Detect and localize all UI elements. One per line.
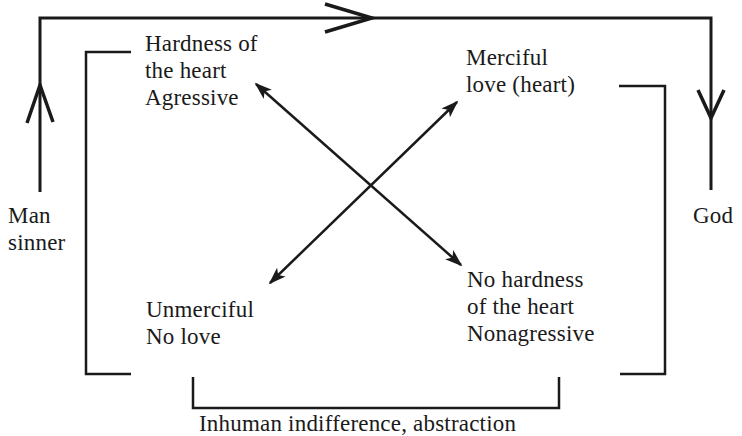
left-bracket (86, 52, 131, 374)
label-unmerciful-no-love: Unmerciful No love (146, 296, 254, 350)
label-line: of the heart (467, 293, 595, 320)
right-bracket (619, 86, 665, 374)
label-line: No hardness (467, 266, 595, 293)
label-line: the heart (145, 57, 258, 84)
label-line: God (693, 202, 733, 229)
label-hardness-of-heart: Hardness of the heart Agressive (145, 30, 258, 111)
label-line: sinner (8, 229, 65, 256)
label-line: Unmerciful (146, 296, 254, 323)
double-arrow-hardness (256, 84, 461, 265)
label-line: No love (146, 323, 254, 350)
label-no-hardness: No hardness of the heart Nonagressive (467, 266, 595, 347)
diagram-lines (0, 0, 742, 436)
label-line: Agressive (145, 84, 258, 111)
outer-path-line (40, 18, 711, 192)
label-god: God (693, 202, 733, 229)
label-line: Hardness of (145, 30, 258, 57)
label-line: Merciful (466, 44, 575, 71)
bottom-bracket (193, 377, 559, 408)
double-arrow-mercy (270, 102, 457, 283)
label-man-sinner: Man sinner (8, 202, 65, 256)
label-merciful-love: Merciful love (heart) (466, 44, 575, 98)
label-line: love (heart) (466, 71, 575, 98)
label-line: Man (8, 202, 65, 229)
label-line: Nonagressive (467, 320, 595, 347)
diagram-canvas: Hardness of the heart Agressive Merciful… (0, 0, 742, 436)
label-inhuman-indifference: Inhuman indifference, abstraction (199, 410, 516, 436)
